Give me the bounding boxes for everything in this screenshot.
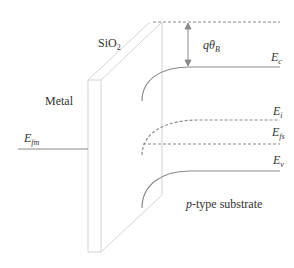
ev-label: Ev — [272, 153, 284, 169]
oxide-slab — [88, 22, 162, 252]
ec-band — [142, 67, 280, 101]
substrate-label: p-type substrate — [185, 197, 262, 211]
metal-label: Metal — [45, 94, 74, 108]
oxide-label: SiO2 — [98, 36, 121, 52]
ec-label: Ec — [270, 50, 282, 66]
ei-label: Ei — [272, 104, 283, 120]
qtheta-arrow — [185, 23, 191, 66]
qtheta-label: qθB — [203, 38, 220, 54]
efm-label: Efm — [23, 131, 40, 147]
ei-level — [142, 120, 280, 155]
band-diagram: SiO2 Metal Efm qθB Ec Ei Efs Ev p-type s… — [0, 0, 294, 268]
efs-label: Efs — [271, 125, 285, 141]
